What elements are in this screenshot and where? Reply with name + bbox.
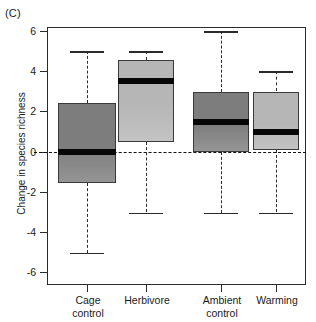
whisker-upper [221, 31, 222, 92]
x-tick-mark [221, 285, 222, 292]
boxplot-series [0, 0, 316, 322]
whisker-cap-lower [70, 253, 104, 255]
whisker-cap-upper [70, 51, 104, 53]
x-tick-mark [276, 285, 277, 292]
whisker-cap-upper [204, 31, 238, 33]
x-tick-label-warming: Warming [239, 294, 315, 307]
box-warming [253, 92, 299, 150]
whisker-lower [221, 152, 222, 213]
median-line [193, 119, 249, 125]
whisker-lower [276, 150, 277, 213]
boxplot-figure: (C) Change in species richness 6 4 2 0 -… [0, 0, 316, 322]
median-line [58, 149, 116, 155]
x-tick-label-herbivore: Herbivore [109, 294, 185, 307]
whisker-cap-lower [204, 213, 238, 215]
box-cage-control [58, 103, 116, 184]
whisker-cap-upper [129, 51, 163, 53]
box-herbivore [118, 60, 174, 142]
whisker-lower [146, 142, 147, 213]
whisker-upper [87, 51, 88, 102]
x-tick-mark [146, 285, 147, 292]
whisker-lower [87, 183, 88, 253]
median-line [253, 129, 299, 135]
whisker-cap-upper [259, 71, 293, 73]
median-line [118, 78, 174, 84]
whisker-cap-lower [259, 213, 293, 215]
x-tick-mark [87, 285, 88, 292]
whisker-upper [276, 71, 277, 91]
whisker-cap-lower [129, 213, 163, 215]
